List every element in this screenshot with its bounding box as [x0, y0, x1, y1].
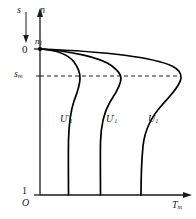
curve-label-u0: U1 — [148, 114, 158, 124]
curve-label-u1-sub: 1 — [114, 117, 117, 124]
marker-label-n1-sub: 1 — [40, 40, 43, 46]
tick-label-one: 1 — [22, 186, 27, 196]
marker-label-n1: n1 — [35, 37, 42, 47]
marker-label-sm: sm — [14, 69, 22, 79]
down-arrow-icon — [23, 12, 29, 43]
curve-label-u1: U′1 — [106, 114, 117, 124]
horizontal-axis — [40, 192, 192, 198]
axis-label-n: n — [40, 5, 45, 15]
curve-label-u2: U″1 — [60, 114, 73, 124]
axis-label-s: s — [17, 5, 21, 15]
axis-label-tm-sub: m — [178, 203, 183, 210]
velocity-profile-figure: s n n1 0 sm 1 O Tm U″1 U′1 U1 — [0, 0, 196, 219]
curve-label-u0-sub: 1 — [155, 117, 158, 124]
plot-canvas — [0, 0, 196, 219]
curve-label-u2-sub: 1 — [69, 117, 72, 124]
marker-label-sm-sub: m — [18, 72, 23, 79]
axis-label-tm: Tm — [172, 200, 182, 210]
tick-label-zero: 0 — [22, 44, 28, 55]
origin-label: O — [22, 198, 29, 208]
